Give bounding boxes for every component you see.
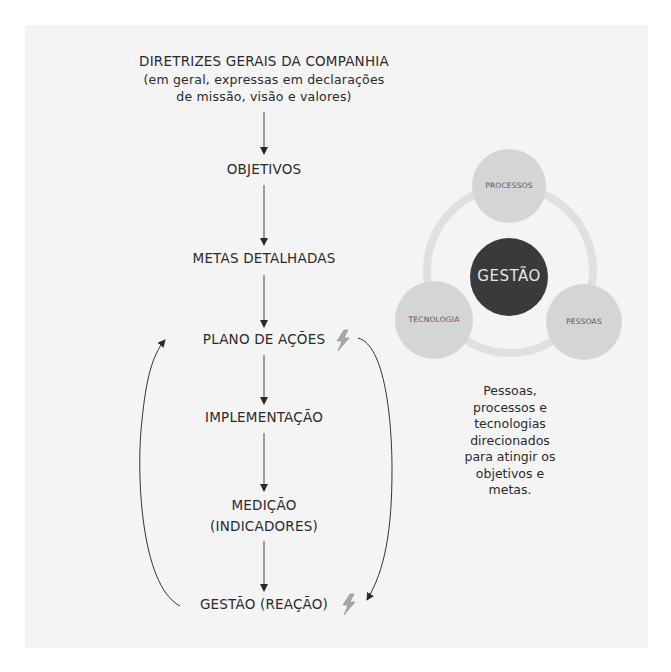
step-plano-de-acoes: PLANO DE AÇÕES bbox=[164, 331, 364, 347]
caption-line: Pessoas, bbox=[450, 383, 570, 400]
feedback-arrow-right bbox=[358, 338, 392, 600]
cycle-caption: Pessoas, processos e tecnologias direcio… bbox=[450, 383, 570, 499]
node-tecnologia-label: TECNOLOGIA bbox=[394, 315, 474, 324]
caption-line: tecnologias bbox=[450, 416, 570, 433]
step-indicadores: (INDICADORES) bbox=[164, 518, 364, 534]
caption-line: direcionados bbox=[450, 433, 570, 450]
node-pessoas-label: PESSOAS bbox=[544, 317, 624, 326]
step-gestao-reacao: GESTÃO (REAÇÃO) bbox=[164, 596, 364, 612]
header-subtitle-1: (em geral, expressas em declarações bbox=[114, 71, 414, 88]
feedback-arrow-left bbox=[140, 340, 180, 606]
node-processos-label: PROCESSOS bbox=[469, 181, 549, 190]
caption-line: metas. bbox=[450, 482, 570, 499]
caption-line: processos e bbox=[450, 400, 570, 417]
node-gestao-label: GESTÃO bbox=[469, 267, 549, 285]
step-objetivos: OBJETIVOS bbox=[164, 161, 364, 177]
header-title: DIRETRIZES GERAIS DA COMPANHIA bbox=[114, 53, 414, 69]
step-implementacao: IMPLEMENTAÇÃO bbox=[164, 409, 364, 425]
step-medicao: MEDIÇÃO bbox=[164, 497, 364, 513]
caption-line: objetivos e bbox=[450, 466, 570, 483]
header-subtitle-2: de missão, visão e valores) bbox=[114, 88, 414, 105]
step-metas-detalhadas: METAS DETALHADAS bbox=[164, 250, 364, 266]
caption-line: para atingir os bbox=[450, 449, 570, 466]
